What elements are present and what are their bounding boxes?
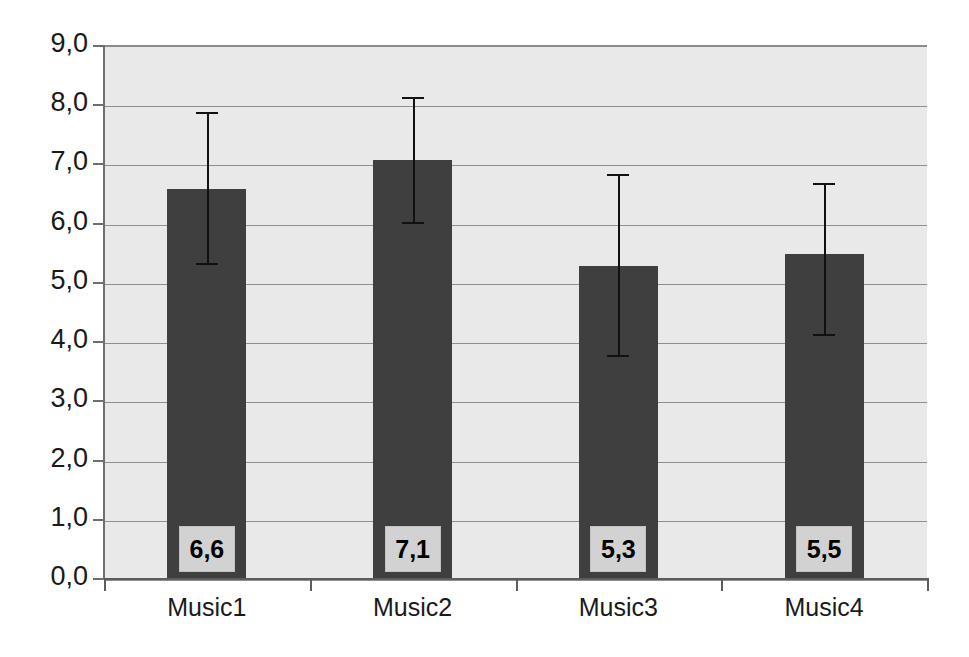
x-axis-label-music2: Music2 <box>333 592 493 622</box>
x-axis-label-music3: Music3 <box>538 592 698 622</box>
y-axis-tick-mark <box>93 400 104 402</box>
y-axis-tick-mark <box>93 163 104 165</box>
chart-figure: unreadable show-through text unreadable … <box>0 0 969 657</box>
error-bar-cap-upper <box>607 174 629 176</box>
error-bar-cap-lower <box>813 334 835 336</box>
x-axis-tick-mark <box>310 578 312 591</box>
x-axis-tick-mark <box>104 578 106 591</box>
x-axis-tick-mark <box>516 578 518 591</box>
y-axis-tick-label: 4,0 <box>8 326 88 353</box>
error-bar-line <box>824 183 826 334</box>
x-axis-label-music4: Music4 <box>744 592 904 622</box>
y-axis-tick-label: 8,0 <box>8 89 88 116</box>
y-axis-tick-mark <box>93 519 104 521</box>
y-axis-tick-mark <box>93 104 104 106</box>
y-axis-tick-label: 5,0 <box>8 267 88 294</box>
error-bar-line <box>618 174 620 355</box>
y-axis-tick-mark <box>93 45 104 47</box>
y-axis-tick-label: 1,0 <box>8 504 88 531</box>
gridline <box>104 165 927 166</box>
y-axis-tick-label: 9,0 <box>8 30 88 57</box>
data-label-music3: 5,3 <box>590 526 646 572</box>
error-bar-cap-lower <box>607 355 629 357</box>
y-axis-tick-label: 2,0 <box>8 445 88 472</box>
y-axis-tick-mark <box>93 282 104 284</box>
y-axis-tick-mark <box>93 460 104 462</box>
x-axis-label-music1: Music1 <box>127 592 287 622</box>
y-axis-tick-labels: 0,01,02,03,04,05,06,07,08,09,0 <box>0 0 88 657</box>
error-bar-cap-lower <box>402 222 424 224</box>
gridline <box>104 106 927 107</box>
error-bar-cap-lower <box>196 263 218 265</box>
y-axis-tick-label: 7,0 <box>8 148 88 175</box>
error-bar-cap-upper <box>813 183 835 185</box>
error-bar-line <box>207 112 209 263</box>
x-axis-tick-mark <box>721 578 723 591</box>
y-axis-tick-label: 6,0 <box>8 208 88 235</box>
data-label-music4: 5,5 <box>796 526 852 572</box>
y-axis-tick-mark <box>93 223 104 225</box>
y-axis-tick-mark <box>93 578 104 580</box>
y-axis-tick-label: 3,0 <box>8 385 88 412</box>
data-label-music2: 7,1 <box>385 526 441 572</box>
error-bar-line <box>413 97 415 221</box>
y-axis-tick-mark <box>93 341 104 343</box>
x-axis-tick-mark <box>927 578 929 591</box>
error-bar-cap-upper <box>196 112 218 114</box>
data-label-music1: 6,6 <box>179 526 235 572</box>
error-bar-cap-upper <box>402 97 424 99</box>
y-axis-line <box>103 45 105 579</box>
plot-area: 6,67,15,35,5 <box>104 45 927 580</box>
y-axis-tick-label: 0,0 <box>8 563 88 590</box>
